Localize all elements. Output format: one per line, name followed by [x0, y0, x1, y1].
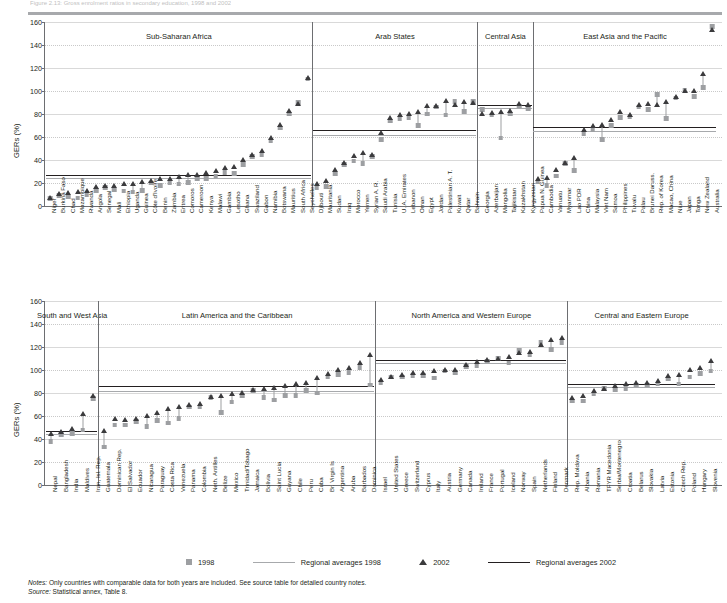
chart-panel-top: GERs (%) 020406080100120140160Sub-Sahara… — [0, 18, 727, 273]
x-axis-label: Albania — [584, 472, 590, 492]
top-rule — [28, 12, 722, 15]
data-point-2002 — [176, 174, 182, 179]
data-point-2002 — [665, 373, 671, 378]
gridline — [45, 324, 722, 325]
x-axis-label: Niue — [677, 200, 683, 213]
data-point-2002 — [229, 391, 235, 396]
x-axis-label: India — [73, 479, 79, 492]
data-point-2002 — [341, 160, 347, 165]
x-axis-label: Niger — [51, 198, 57, 213]
data-point-2002 — [261, 386, 267, 391]
data-point-2002 — [208, 394, 214, 399]
x-axis-label: Tunisia — [392, 194, 398, 213]
data-point-1998 — [560, 340, 565, 345]
y-tick-mark — [42, 22, 45, 23]
data-point-2002 — [305, 75, 311, 80]
x-axis-label: Ghana — [244, 195, 250, 213]
x-axis-label: Cambodia — [548, 185, 554, 213]
data-point-1998 — [368, 383, 373, 388]
data-point-2002 — [562, 160, 568, 165]
data-point-2002 — [240, 157, 246, 162]
notes-line: Notes: Only countries with comparable da… — [28, 578, 718, 587]
x-axis-label: Romania — [595, 468, 601, 492]
x-axis-label: Kuwait — [456, 195, 462, 213]
data-point-1998 — [590, 128, 595, 133]
data-point-1998 — [554, 174, 559, 179]
x-axis-label: United States — [393, 455, 399, 492]
data-point-2002 — [360, 150, 366, 155]
data-point-2002 — [58, 429, 64, 434]
data-point-2002 — [470, 100, 476, 105]
data-point-1998 — [357, 365, 362, 370]
y-tick-mark — [42, 206, 45, 207]
data-point-1998 — [361, 161, 366, 166]
x-axis-label: Rep. of Korea — [658, 175, 664, 213]
data-point-1998 — [646, 107, 651, 112]
x-axis-label: Brunei Daruss. — [649, 173, 655, 213]
x-axis-label: Portugal — [499, 469, 505, 492]
x-axis-label: Kazakhstan — [520, 181, 526, 213]
x-axis-label: Norway — [520, 471, 526, 492]
data-point-2002 — [708, 358, 714, 363]
x-axis-label: Comoros — [189, 188, 195, 213]
x-axis-label: Jordan — [438, 194, 444, 213]
regional-average-1998-line — [478, 108, 531, 109]
x-axis-label: Greece — [403, 472, 409, 492]
data-point-2002 — [295, 101, 301, 106]
value-connector — [370, 355, 371, 385]
x-axis-label: Australia — [714, 189, 720, 213]
x-axis-label: Saudi Arabia — [382, 178, 388, 213]
x-axis-label: Slovenia — [712, 469, 718, 492]
gridline — [45, 68, 722, 69]
data-point-2002 — [676, 372, 682, 377]
data-point-2002 — [48, 431, 54, 436]
x-axis-label: Rwanda — [88, 191, 94, 213]
notes-label: Notes: — [28, 579, 47, 586]
x-axis-label: U. A. Emirates — [401, 174, 407, 213]
y-axis-label-bottom: GERs (%) — [12, 402, 21, 437]
data-point-2002 — [102, 183, 108, 188]
x-axis-label: Sudan — [336, 195, 342, 213]
x-axis-label: Tuvalu — [631, 195, 637, 213]
data-point-2002 — [443, 98, 449, 103]
data-point-1998 — [261, 395, 266, 400]
data-point-2002 — [687, 367, 693, 372]
x-axis-label: Palestinian A. T. — [447, 170, 453, 213]
data-point-2002 — [601, 386, 607, 391]
region-label: North America and Western Europe — [411, 311, 531, 320]
y-tick-label: 100 — [30, 88, 42, 95]
x-axis-label: Mongolia — [502, 188, 508, 213]
data-point-1998 — [167, 181, 172, 186]
data-point-2002 — [623, 381, 629, 386]
data-point-2002 — [591, 388, 597, 393]
y-tick-mark — [42, 324, 45, 325]
data-point-1998 — [572, 168, 577, 173]
regional-average-2002-line — [376, 360, 565, 361]
data-point-2002 — [507, 108, 513, 113]
x-axis-label: Cuba — [318, 477, 324, 492]
region-label: Central and Eastern Europe — [595, 311, 689, 320]
x-axis-label: Trinidad/Tobago — [244, 449, 250, 492]
x-axis-label: Germany — [457, 467, 463, 492]
data-point-1998 — [158, 183, 163, 188]
y-axis-label-top: GERs (%) — [12, 123, 21, 158]
gridline — [45, 160, 722, 161]
data-point-2002 — [80, 411, 86, 416]
data-point-2002 — [580, 393, 586, 398]
regional-average-1998-line — [99, 391, 374, 392]
x-axis-label: Iraq — [346, 202, 352, 213]
data-point-2002 — [250, 387, 256, 392]
x-axis-label: Nicaragua — [148, 464, 154, 492]
regional-average-1998-line — [533, 131, 715, 132]
gridline — [45, 22, 722, 23]
gridline — [45, 370, 722, 371]
x-axis-label: Kyrgyzstan — [530, 183, 536, 213]
data-point-2002 — [559, 335, 565, 340]
data-point-2002 — [222, 165, 228, 170]
data-point-2002 — [682, 88, 688, 93]
data-point-2002 — [101, 428, 107, 433]
data-point-1998 — [70, 431, 75, 436]
x-axis-label: Macao, China — [668, 175, 674, 213]
regional-average-2002-line — [313, 130, 477, 131]
data-point-1998 — [698, 371, 703, 376]
